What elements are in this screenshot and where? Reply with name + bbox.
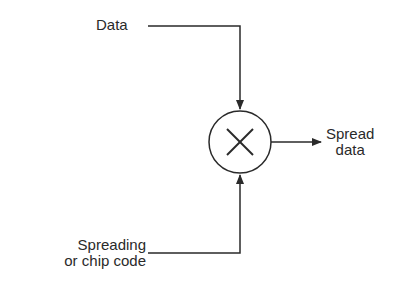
code-input-line bbox=[148, 175, 240, 253]
chip-code-line2: or chip code bbox=[64, 253, 146, 269]
multiplier-node bbox=[209, 111, 271, 173]
data-input-line bbox=[148, 26, 240, 109]
data-input-label: Data bbox=[96, 17, 128, 33]
spread-label-line1: Spread bbox=[326, 126, 374, 142]
spread-data-label: Spread data bbox=[326, 126, 374, 158]
data-label-text: Data bbox=[96, 16, 128, 33]
chip-code-label: Spreading or chip code bbox=[64, 237, 146, 269]
chip-code-line1: Spreading bbox=[64, 237, 146, 253]
spread-label-line2: data bbox=[326, 142, 374, 158]
